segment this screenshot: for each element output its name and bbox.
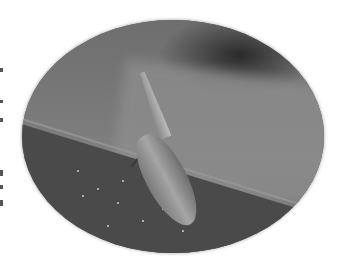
insect-photo [22,20,324,253]
cropped-text-fragments [0,60,6,240]
